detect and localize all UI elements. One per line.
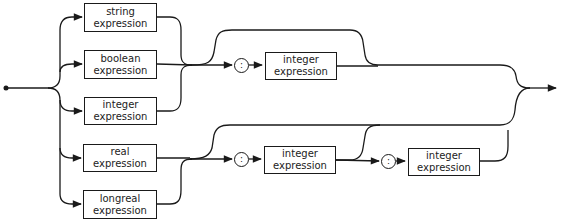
box-label-line2: expression (93, 205, 147, 217)
colon-symbol-lower-2: : (381, 154, 396, 169)
box-label-line2: expression (94, 65, 148, 77)
colon-symbol-upper: : (234, 58, 249, 73)
box-label-line1: string (106, 6, 135, 18)
box-label-line2: expression (94, 18, 148, 30)
integer-expression-box: integer expression (84, 97, 157, 125)
precision-integer-expression-box: integer expression (408, 148, 480, 176)
real-expression-box: real expression (83, 144, 157, 172)
box-label-line1: integer (103, 99, 139, 111)
box-label-line1: integer (426, 150, 462, 162)
box-label-line1: boolean (101, 53, 141, 65)
width-integer-expression-box-upper: integer expression (265, 52, 337, 80)
string-expression-box: string expression (84, 3, 157, 32)
colon-symbol-lower-1: : (234, 152, 249, 167)
box-label-line2: expression (273, 160, 327, 172)
boolean-expression-box: boolean expression (84, 50, 157, 79)
width-integer-expression-box-lower: integer expression (264, 146, 336, 174)
box-label-line1: integer (282, 148, 318, 160)
longreal-expression-box: longreal expression (83, 190, 157, 219)
box-label-line1: longreal (100, 193, 141, 205)
box-label-line2: expression (417, 162, 471, 174)
box-label-line2: expression (93, 158, 147, 170)
box-label-line1: real (111, 146, 130, 158)
box-label-line1: integer (283, 54, 319, 66)
box-label-line2: expression (94, 111, 148, 123)
box-label-line2: expression (274, 66, 328, 78)
